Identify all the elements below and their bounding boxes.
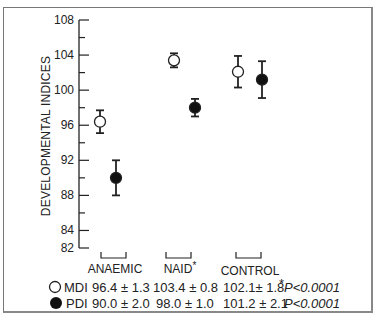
- pdi-anaemic: 90.0 ± 2.0: [92, 296, 150, 311]
- y-tick-104: 104: [54, 48, 74, 62]
- mdi-point-1: [169, 53, 180, 67]
- pdi-label: PDI: [66, 296, 88, 311]
- group-label-naid: NAID*: [164, 260, 197, 276]
- pdi-point-1: [190, 99, 201, 117]
- pdi-naid: 98.0 ± 1.0: [156, 296, 214, 311]
- mdi-label: MDI: [64, 280, 88, 295]
- mdi-point-2: [233, 56, 244, 88]
- open-circle-icon: [50, 282, 61, 293]
- y-tick-88: 88: [61, 188, 75, 202]
- mdi-control: 102.1± 1.8: [223, 280, 284, 295]
- y-tick-92: 92: [61, 153, 75, 167]
- group-label-anaemic: ANAEMIC: [88, 262, 143, 276]
- y-tick-96: 96: [61, 118, 75, 132]
- bracket-naid: [166, 252, 191, 258]
- mdi-naid: 103.4 ± 0.8: [153, 280, 218, 295]
- bracket-control: [236, 252, 261, 258]
- mdi-point-0: [95, 110, 106, 133]
- filled-circle-icon: [50, 297, 62, 309]
- pdi-point-2: [257, 61, 268, 98]
- group-label-control: CONTROL: [221, 264, 280, 278]
- data-points: [95, 53, 268, 195]
- mdi-anaemic: 96.4 ± 1.3: [92, 280, 150, 295]
- y-tick-100: 100: [54, 83, 74, 97]
- group-brackets: [101, 252, 261, 258]
- mdi-p-value: P<0.0001: [284, 280, 340, 295]
- y-tick-108: 108: [54, 13, 74, 27]
- bracket-anaemic: [101, 252, 126, 258]
- pdi-point-0: [111, 160, 122, 195]
- y-tick-84: 84: [61, 223, 75, 237]
- y-tick-82: 82: [61, 241, 75, 255]
- y-axis: [79, 20, 89, 248]
- pdi-p-value: P<0.0001: [284, 296, 340, 311]
- pdi-control: 101.2 ± 2.1: [223, 296, 288, 311]
- y-axis-label: DEVELOPMENTAL INDICES: [39, 56, 53, 216]
- chart: DEVELOPMENTAL INDICES 108 104 100 96 92 …: [0, 0, 379, 325]
